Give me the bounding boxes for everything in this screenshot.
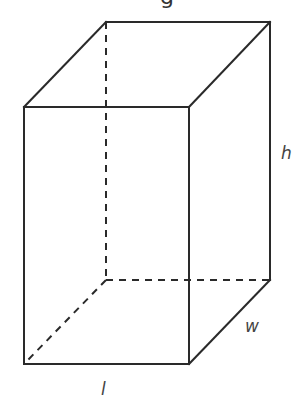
hidden-edges <box>24 22 270 364</box>
prism-diagram: g h w l <box>0 0 296 407</box>
hidden-edge-bottom-left-depth <box>24 280 106 364</box>
visible-edges <box>24 22 270 364</box>
edge-top-left-depth <box>24 22 106 107</box>
rectangular-prism-figure: g h w l <box>0 0 296 407</box>
edge-top-right-depth <box>189 22 270 107</box>
width-label: w <box>245 316 259 336</box>
dimension-labels: h w l <box>101 143 292 399</box>
title-fragment: g <box>160 0 174 9</box>
length-label: l <box>101 379 106 399</box>
height-label: h <box>281 143 292 163</box>
